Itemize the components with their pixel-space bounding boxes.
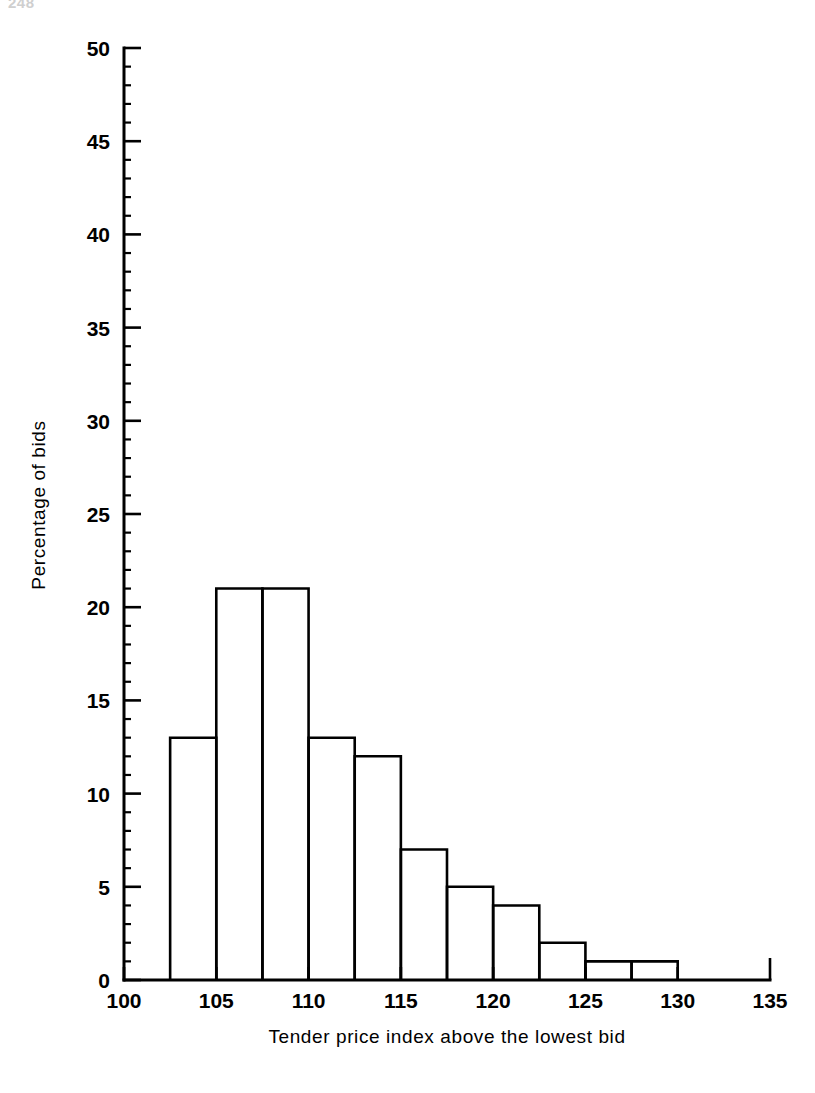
histogram-bar [262, 589, 308, 980]
x-axis-tick-label: 105 [199, 989, 234, 1012]
y-axis-tick-label: 20 [87, 596, 110, 619]
y-axis-tick-label: 10 [87, 783, 110, 806]
y-axis-tick-label: 5 [98, 876, 110, 899]
x-axis-tick-label: 110 [292, 989, 326, 1012]
x-axis-tick-label: 125 [568, 989, 603, 1012]
histogram-bar [216, 589, 262, 980]
histogram-bar [632, 961, 678, 980]
histogram-bar [447, 887, 493, 980]
y-axis-tick-label: 15 [87, 689, 111, 712]
y-axis-tick-label: 25 [87, 503, 111, 526]
y-axis-tick-label: 50 [87, 37, 110, 60]
y-axis-tick-label: 40 [87, 223, 110, 246]
histogram-bar [493, 905, 539, 980]
histogram-chart: Percentage of bids Tender price index ab… [0, 0, 815, 1093]
y-axis-label-group: Percentage of bids [28, 420, 49, 589]
histogram-figure: 248 Percentage of bids Tender price inde… [0, 0, 815, 1093]
histogram-bar [585, 961, 631, 980]
y-axis-tick-label: 35 [87, 317, 111, 340]
x-axis-tick-label: 120 [476, 989, 511, 1012]
x-axis-tick-label: 130 [660, 989, 695, 1012]
histogram-bar [355, 756, 401, 980]
y-axis-title: Percentage of bids [28, 420, 49, 589]
histogram-bar [539, 943, 585, 980]
y-axis-tick-label: 45 [87, 130, 111, 153]
x-axis-tick-label: 100 [106, 989, 141, 1012]
x-axis-label-group: Tender price index above the lowest bid [268, 1026, 625, 1047]
histogram-bar [401, 850, 447, 980]
histogram-bar [170, 738, 216, 980]
x-axis-tick-label: 115 [384, 989, 418, 1012]
page-number: 248 [8, 0, 35, 11]
x-axis-title: Tender price index above the lowest bid [268, 1026, 625, 1047]
y-axis-tick-label: 30 [87, 410, 110, 433]
x-axis-tick-label: 135 [752, 989, 787, 1012]
plot-area: 0510152025303540455010010511011512012513… [87, 37, 788, 1012]
histogram-bar [309, 738, 355, 980]
